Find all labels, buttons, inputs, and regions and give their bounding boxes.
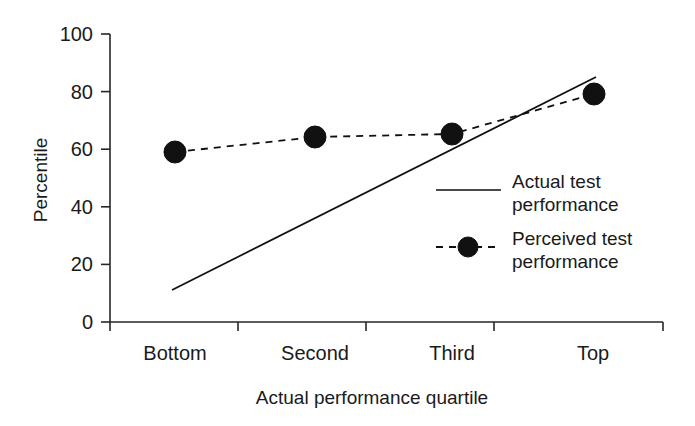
y-tick-label-0: 0 [82,311,93,333]
chart-container: 100 80 60 40 20 0 Percentile Bottom Seco… [0,0,695,426]
y-tick-label-20: 20 [71,253,93,275]
circle-marker-swatch-icon [458,237,478,257]
y-tick-label-40: 40 [71,196,93,218]
x-axis: Bottom Second Third Top Actual performan… [110,322,663,408]
data-point-bottom [164,141,186,163]
y-tick-label-100: 100 [60,23,93,45]
x-tick-label-third: Third [429,342,475,364]
series-perceived-test-performance [164,83,605,163]
y-axis: 100 80 60 40 20 0 Percentile [30,23,110,333]
x-tick-label-bottom: Bottom [143,342,206,364]
data-point-second [304,126,326,148]
y-axis-title: Percentile [30,138,51,223]
data-point-third [441,123,463,145]
legend-label-perceived-line2: performance [512,251,619,272]
perceived-performance-line [175,94,594,152]
x-axis-title: Actual performance quartile [256,387,488,408]
y-tick-label-80: 80 [71,81,93,103]
line-chart: 100 80 60 40 20 0 Percentile Bottom Seco… [0,0,695,426]
legend-label-perceived-line1: Perceived test [512,228,633,249]
legend-label-actual-line1: Actual test [512,171,601,192]
y-tick-label-60: 60 [71,138,93,160]
legend-item-perceived: Perceived test performance [436,228,633,272]
chart-legend: Actual test performance Perceived test p… [436,171,633,272]
x-tick-label-top: Top [577,342,609,364]
data-point-top [583,83,605,105]
legend-label-actual-line2: performance [512,194,619,215]
x-tick-label-second: Second [281,342,349,364]
legend-item-actual: Actual test performance [436,171,619,215]
